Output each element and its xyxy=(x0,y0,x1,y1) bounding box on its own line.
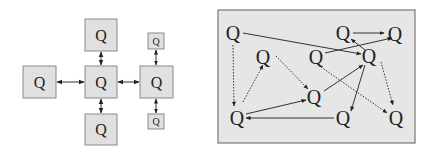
node-left: Q xyxy=(23,66,56,98)
node-d: Q xyxy=(362,45,377,67)
node-i: Q xyxy=(336,107,351,129)
node-label: Q xyxy=(152,36,160,47)
node-bottom: Q xyxy=(85,114,117,145)
node-label: Q xyxy=(152,116,160,127)
diagram-canvas: Q Q Q Q Q Q Q xyxy=(0,0,437,155)
node-top: Q xyxy=(85,19,117,51)
node-label: Q xyxy=(151,74,163,91)
centralized-diagram: Q Q Q Q Q Q Q xyxy=(23,19,173,145)
node-b: Q xyxy=(256,46,271,68)
node-a: Q xyxy=(226,22,241,44)
node-label: Q xyxy=(34,74,46,91)
node-j: Q xyxy=(389,107,404,129)
decentralized-diagram: Q Q Q Q Q Q Q Q Q Q xyxy=(218,10,415,143)
node-label: Q xyxy=(95,27,107,44)
node-small-top: Q xyxy=(148,33,164,49)
node-center: Q xyxy=(85,66,117,98)
node-g: Q xyxy=(307,86,322,108)
node-right: Q xyxy=(140,66,173,98)
node-small-bottom: Q xyxy=(148,114,164,129)
node-f: Q xyxy=(388,23,403,45)
node-c: Q xyxy=(309,46,324,68)
node-label: Q xyxy=(95,74,107,91)
node-h: Q xyxy=(230,107,245,129)
node-label: Q xyxy=(95,121,107,138)
node-e: Q xyxy=(336,22,351,44)
